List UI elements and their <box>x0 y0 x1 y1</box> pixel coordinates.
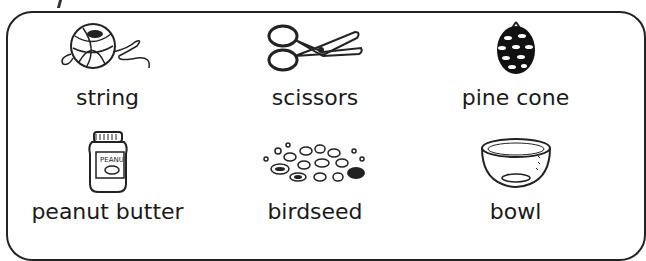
item-bowl: bowl <box>415 117 616 231</box>
birdseed-icon <box>258 131 373 193</box>
item-scissors: scissors <box>215 12 415 117</box>
item-label: birdseed <box>267 199 362 225</box>
item-label: peanut butter <box>31 199 183 225</box>
item-string: string <box>0 12 215 117</box>
scissors-icon <box>263 17 368 79</box>
item-label: scissors <box>272 85 359 111</box>
svg-text:PEANU: PEANU <box>100 156 124 164</box>
item-label: pine cone <box>462 85 570 111</box>
bowl-icon <box>478 131 554 193</box>
pine-cone-icon <box>494 17 538 79</box>
item-label: bowl <box>490 199 542 225</box>
peanut-butter-jar-icon: PEANU <box>86 131 130 193</box>
item-peanut-butter: PEANU peanut butter <box>0 117 215 231</box>
item-pine-cone: pine cone <box>415 12 616 117</box>
cut-off-text-mark <box>57 0 62 8</box>
materials-grid: string scissors <box>0 12 616 231</box>
item-label: string <box>76 85 139 111</box>
item-birdseed: birdseed <box>215 117 415 231</box>
ball-of-string-icon <box>53 17 163 79</box>
